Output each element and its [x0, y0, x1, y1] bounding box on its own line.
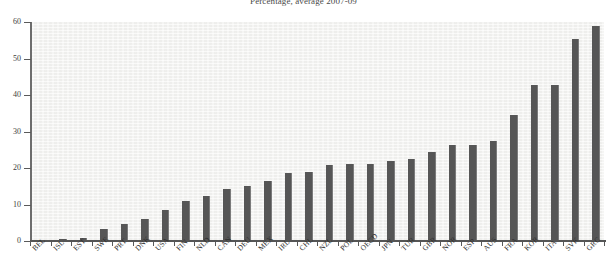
plot-area: [30, 22, 604, 241]
y-axis-tick-label: 30: [0, 128, 21, 136]
bar: [551, 85, 559, 241]
y-axis-tick-label: 40: [0, 91, 21, 99]
y-axis-tick: [24, 168, 31, 169]
y-axis-tick-label: 50: [0, 55, 21, 63]
y-axis-tick-label: 10: [0, 201, 21, 209]
bar: [469, 145, 477, 241]
bar: [531, 85, 539, 241]
y-axis-tick: [24, 132, 31, 133]
y-axis-tick: [24, 205, 31, 206]
y-axis-tick-label: 0: [0, 237, 21, 245]
y-axis-tick: [24, 95, 31, 96]
y-axis-tick-label: 20: [0, 164, 21, 172]
bar: [285, 173, 293, 241]
bar: [592, 26, 600, 241]
chart-title: Percentage, average 2007-09: [0, 0, 607, 7]
bar: [408, 159, 416, 241]
bar: [305, 172, 313, 241]
bar: [367, 164, 375, 241]
bar: [264, 181, 272, 241]
y-axis-tick: [24, 59, 31, 60]
bar: [572, 39, 580, 241]
plot-background-texture: [32, 22, 604, 241]
x-axis-tick: [604, 242, 605, 246]
bar: [346, 164, 354, 241]
bar: [182, 201, 190, 241]
y-axis-tick: [24, 22, 31, 23]
y-axis-tick-label: 60: [0, 18, 21, 26]
bar: [387, 161, 395, 241]
bar: [326, 165, 334, 241]
bar: [449, 145, 457, 241]
chart-figure: Percentage, average 2007-09 010203040506…: [0, 0, 607, 269]
bar: [244, 186, 252, 241]
bar: [223, 189, 231, 241]
bar: [203, 196, 211, 241]
bar: [428, 152, 436, 241]
bar: [490, 141, 498, 241]
bar: [510, 115, 518, 241]
